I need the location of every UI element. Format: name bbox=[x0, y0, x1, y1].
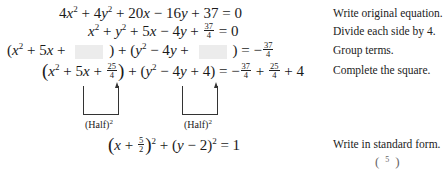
equation-original: 4x2 + 4y2 + 20x − 16y + 37 = 0 bbox=[59, 3, 242, 23]
half-squared-bracket-x bbox=[83, 86, 119, 115]
half-squared-bracket-y bbox=[182, 86, 218, 115]
note-step-4: Complete the square. bbox=[333, 60, 430, 80]
arrow-up-icon bbox=[214, 82, 218, 88]
step-5: (x + 52)2 + (y − 2)2 = 1 Write in standa… bbox=[0, 134, 430, 154]
fraction-5-2: 52 bbox=[138, 136, 144, 153]
equation-divided: x2 + y2 + 5x − 4y + 374 = 0 bbox=[88, 21, 239, 41]
note-step-2: Divide each side by 4. bbox=[333, 21, 436, 41]
fraction-25-4: 254 bbox=[269, 62, 280, 79]
step-1: 4x2 + 4y2 + 20x − 16y + 37 = 0 Write ori… bbox=[0, 3, 430, 23]
arrow-up-icon bbox=[115, 82, 119, 88]
partial-expression: (5) bbox=[375, 152, 400, 174]
equation-completed: (x2 + 5x + 254) + (y2 − 4y + 4) = −374 +… bbox=[42, 60, 304, 81]
fraction-25-4: 254 bbox=[107, 62, 118, 79]
fraction-37-4: 374 bbox=[204, 22, 215, 39]
blank-box-x bbox=[75, 45, 103, 59]
blank-box-y bbox=[199, 45, 227, 59]
fraction-37-4: 374 bbox=[241, 62, 252, 79]
step-3: (x2 + 5x + ) + (y2 − 4y + ) = −374 Group… bbox=[0, 40, 430, 60]
half-squared-label-x: (Half)2 bbox=[85, 119, 113, 130]
note-step-5: Write in standard form. bbox=[333, 134, 440, 154]
equation-grouped: (x2 + 5x + ) + (y2 − 4y + ) = −374 bbox=[7, 40, 274, 60]
note-step-1: Write original equation. bbox=[333, 3, 443, 23]
fraction-37-4: 374 bbox=[263, 41, 274, 58]
half-squared-label-y: (Half)2 bbox=[184, 119, 212, 130]
note-step-3: Group terms. bbox=[333, 40, 394, 60]
step-4: (x2 + 5x + 254) + (y2 − 4y + 4) = −374 +… bbox=[0, 60, 430, 80]
equation-standard-form: (x + 52)2 + (y − 2)2 = 1 bbox=[108, 134, 240, 155]
step-2: x2 + y2 + 5x − 4y + 374 = 0 Divide each … bbox=[0, 21, 430, 41]
